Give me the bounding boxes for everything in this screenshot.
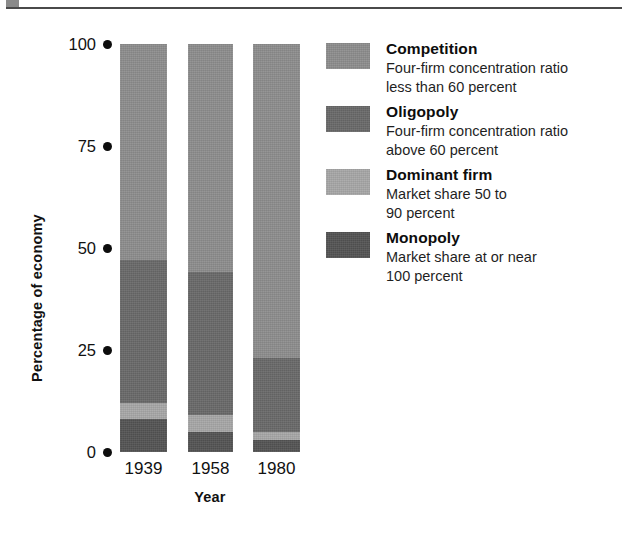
x-axis-tick-label: 1980 — [244, 459, 309, 479]
legend-item-description: Four-firm concentration ratio above 60 p… — [386, 122, 622, 160]
legend-item-label: Monopoly — [386, 229, 622, 247]
bar-1958 — [188, 44, 233, 452]
y-axis-tick: 25 — [40, 340, 112, 360]
legend-swatch-icon — [326, 169, 370, 195]
y-axis-tick: 0 — [40, 442, 112, 462]
legend-item-description: Market share at or near 100 percent — [386, 248, 622, 286]
bar-segment-oligopoly — [120, 260, 167, 403]
legend-item-description: Four-firm concentration ratio less than … — [386, 59, 622, 97]
y-axis-tick-dot-icon — [103, 346, 112, 355]
y-axis-tick-dot-icon — [103, 40, 112, 49]
legend-item-competition[interactable]: CompetitionFour-firm concentration ratio… — [326, 40, 622, 97]
x-axis-title: Year — [111, 489, 309, 505]
y-axis-tick-dot-icon — [103, 244, 112, 253]
bar-1939 — [120, 44, 167, 452]
bar-segment-oligopoly — [188, 272, 233, 415]
legend-item-monopoly[interactable]: MonopolyMarket share at or near 100 perc… — [326, 229, 622, 286]
bar-segment-oligopoly — [253, 358, 300, 431]
plot-area: Percentage of economy 0255075100 1939195… — [0, 0, 320, 537]
bar-1980 — [253, 44, 300, 452]
bar-segment-competition — [188, 44, 233, 272]
y-axis-title: Percentage of economy — [29, 183, 45, 413]
y-axis-tick-label: 25 — [78, 342, 96, 359]
bar-segment-competition — [253, 44, 300, 358]
bar-segment-dominant-firm — [120, 403, 167, 419]
legend-item-label: Competition — [386, 40, 622, 58]
chart-legend: CompetitionFour-firm concentration ratio… — [326, 40, 622, 292]
y-axis-tick-label: 50 — [78, 240, 96, 257]
legend-item-label: Oligopoly — [386, 103, 622, 121]
legend-item-label: Dominant firm — [386, 166, 622, 184]
bar-segment-monopoly — [188, 432, 233, 452]
y-axis-tick: 50 — [40, 238, 112, 258]
stacked-bar-chart: Percentage of economy 0255075100 1939195… — [0, 0, 628, 537]
y-axis-tick-dot-icon — [103, 448, 112, 457]
y-axis-tick-dot-icon — [103, 142, 112, 151]
bar-segment-dominant-firm — [188, 415, 233, 431]
y-axis-tick: 100 — [40, 34, 112, 54]
legend-swatch-icon — [326, 43, 370, 69]
bar-segment-monopoly — [120, 419, 167, 452]
legend-swatch-icon — [326, 106, 370, 132]
legend-item-oligopoly[interactable]: OligopolyFour-firm concentration ratio a… — [326, 103, 622, 160]
legend-item-description: Market share 50 to 90 percent — [386, 185, 622, 223]
y-axis-tick: 75 — [40, 136, 112, 156]
y-axis-tick-label: 100 — [68, 36, 96, 53]
bar-segment-monopoly — [253, 440, 300, 452]
bar-segment-dominant-firm — [253, 432, 300, 440]
bar-segment-competition — [120, 44, 167, 260]
legend-swatch-icon — [326, 232, 370, 258]
x-axis-tick-label: 1958 — [179, 459, 242, 479]
x-axis-tick-label: 1939 — [111, 459, 176, 479]
legend-item-dominant-firm[interactable]: Dominant firmMarket share 50 to 90 perce… — [326, 166, 622, 223]
y-axis-tick-label: 75 — [78, 138, 96, 155]
y-axis-tick-label: 0 — [87, 444, 96, 461]
